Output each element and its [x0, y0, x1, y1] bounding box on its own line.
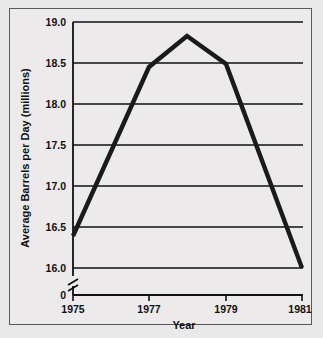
- x-tick-label-1981: 1981: [288, 303, 312, 315]
- x-tick-label-1979: 1979: [214, 303, 238, 315]
- x-axis-tick-labels: 1975 1977 1979 1981: [61, 303, 312, 315]
- gridlines: [73, 22, 303, 268]
- chart-svg: 19.0 18.5 18.0 17.5 17.0 16.5 16.0 0 197…: [0, 0, 323, 338]
- chart-screenshot: 19.0 18.5 18.0 17.5 17.0 16.5 16.0 0 197…: [0, 0, 323, 338]
- y-axis-tick-labels: 19.0 18.5 18.0 17.5 17.0 16.5 16.0 0: [46, 16, 67, 301]
- y-tick-label-16-5: 16.5: [46, 221, 67, 233]
- y-tick-label-18-5: 18.5: [46, 57, 67, 69]
- y-tick-label-16-0: 16.0: [46, 262, 67, 274]
- x-axis-title: Year: [172, 319, 196, 331]
- y-tick-label-19-0: 19.0: [46, 16, 67, 28]
- y-tick-label-17-5: 17.5: [46, 139, 67, 151]
- y-axis-title: Average Barrels per Day (millions): [19, 68, 31, 248]
- y-tick-label-18-0: 18.0: [46, 98, 67, 110]
- line-chart: 19.0 18.5 18.0 17.5 17.0 16.5 16.0 0 197…: [0, 0, 323, 338]
- x-tick-label-1977: 1977: [137, 303, 161, 315]
- data-series-line: [73, 36, 302, 268]
- y-tick-label-17-0: 17.0: [46, 180, 67, 192]
- y-tick-label-zero: 0: [60, 289, 66, 301]
- x-tick-label-1975: 1975: [61, 303, 85, 315]
